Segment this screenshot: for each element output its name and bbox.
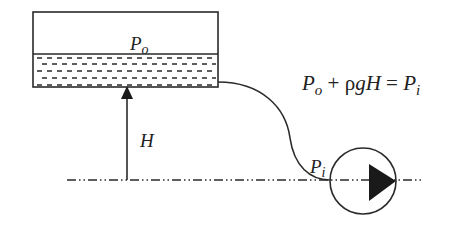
diagram-canvas: Po H Pi Po + ρgH = Pi bbox=[0, 0, 461, 228]
height-label: H bbox=[139, 130, 155, 151]
pump: Pi bbox=[309, 148, 396, 214]
arrow-head-icon bbox=[121, 86, 133, 99]
tank: Po bbox=[33, 12, 218, 87]
equation: Po + ρgH = Pi bbox=[301, 71, 420, 98]
tank-outline bbox=[33, 12, 218, 87]
height-arrow: H bbox=[121, 86, 155, 180]
pump-inlet-pressure-label: Pi bbox=[309, 156, 326, 180]
